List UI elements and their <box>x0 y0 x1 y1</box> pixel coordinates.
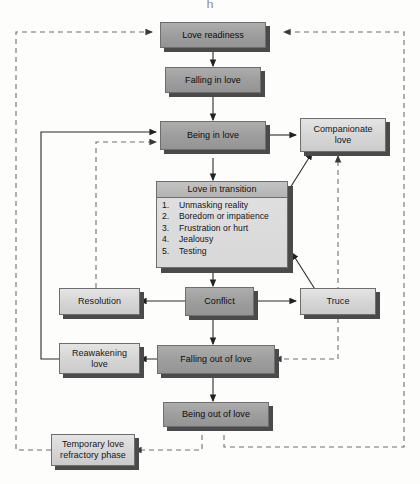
list-item-label: Jealousy <box>179 234 287 245</box>
node-being-out-of-love-label: Being out of love <box>179 409 253 420</box>
node-truce[interactable]: Truce <box>300 288 376 315</box>
figure-title: h <box>0 0 420 8</box>
list-item-number: 1. <box>162 200 179 211</box>
list-item-number: 3. <box>162 223 179 234</box>
node-temporary-love-refractory-phase-label: Temporary love refractory phase <box>52 439 134 461</box>
edge-resolution-to-being-in-love <box>96 142 156 288</box>
list-item-label: Boredom or impatience <box>179 211 287 222</box>
node-love-readiness-label: Love readiness <box>179 30 247 41</box>
list-item: 1. Unmasking reality <box>157 200 287 211</box>
list-item: 5. Testing <box>157 246 287 257</box>
list-item: 3. Frustration or hurt <box>157 223 287 234</box>
list-item-number: 5. <box>162 246 179 257</box>
list-item-number: 2. <box>162 211 179 222</box>
node-love-in-transition-header: Love in transition <box>157 182 287 198</box>
node-being-in-love-label: Being in love <box>184 130 242 141</box>
edge-reawakening-love-to-being-in-love <box>41 132 156 359</box>
list-item-label: Frustration or hurt <box>179 223 287 234</box>
list-item-label: Unmasking reality <box>179 200 287 211</box>
edge-love-in-transition-to-companionate-love <box>290 153 312 188</box>
node-truce-label: Truce <box>324 296 353 307</box>
edge-temporary-refractory-to-love-readiness-left <box>16 32 152 450</box>
node-falling-in-love-label: Falling in love <box>182 75 244 86</box>
edge-being-out-of-love-to-temporary-refractory <box>135 426 202 450</box>
node-companionate-love[interactable]: Companionate love <box>300 118 386 152</box>
node-resolution-label: Resolution <box>75 296 124 307</box>
node-conflict-label: Conflict <box>201 296 237 307</box>
list-item: 4. Jealousy <box>157 234 287 245</box>
flowchart-canvas: h <box>0 0 420 484</box>
list-item-number: 4. <box>162 234 179 245</box>
node-love-readiness[interactable]: Love readiness <box>160 22 266 48</box>
node-falling-out-of-love[interactable]: Falling out of love <box>157 345 275 374</box>
node-falling-in-love[interactable]: Falling in love <box>165 67 261 93</box>
node-reawakening-love-label: Reawakening love <box>60 348 139 370</box>
node-reawakening-love[interactable]: Reawakening love <box>59 343 140 374</box>
node-conflict[interactable]: Conflict <box>185 287 254 316</box>
list-item: 2. Boredom or impatience <box>157 211 287 222</box>
node-temporary-love-refractory-phase[interactable]: Temporary love refractory phase <box>51 434 135 466</box>
love-in-transition-list: 1. Unmasking reality 2. Boredom or impat… <box>157 198 287 259</box>
node-love-in-transition[interactable]: Love in transition 1. Unmasking reality … <box>156 181 288 268</box>
node-companionate-love-label: Companionate love <box>301 124 385 146</box>
node-resolution[interactable]: Resolution <box>59 288 140 315</box>
node-being-in-love[interactable]: Being in love <box>160 121 266 150</box>
node-falling-out-of-love-label: Falling out of love <box>177 354 255 365</box>
node-being-out-of-love[interactable]: Being out of love <box>163 402 269 427</box>
edge-truce-to-falling-out-of-love <box>275 318 338 359</box>
list-item-label: Testing <box>179 246 287 257</box>
